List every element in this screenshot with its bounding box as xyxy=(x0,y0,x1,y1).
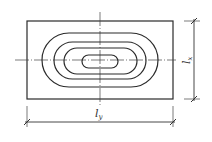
contour-3 xyxy=(64,48,137,74)
dimension-label-ly: ly xyxy=(95,107,104,121)
vertical-dimension: lx xyxy=(180,18,200,102)
horizontal-dimension: ly xyxy=(24,106,176,127)
dimension-label-lx: lx xyxy=(180,56,194,64)
plate-diagram: lx ly xyxy=(0,0,212,142)
